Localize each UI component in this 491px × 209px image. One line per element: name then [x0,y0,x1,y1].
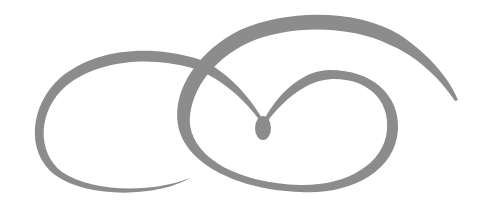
right-loop [177,15,458,192]
flourish-canvas [0,0,491,209]
teardrop [255,116,271,140]
swirl-flourish-icon [0,0,491,209]
